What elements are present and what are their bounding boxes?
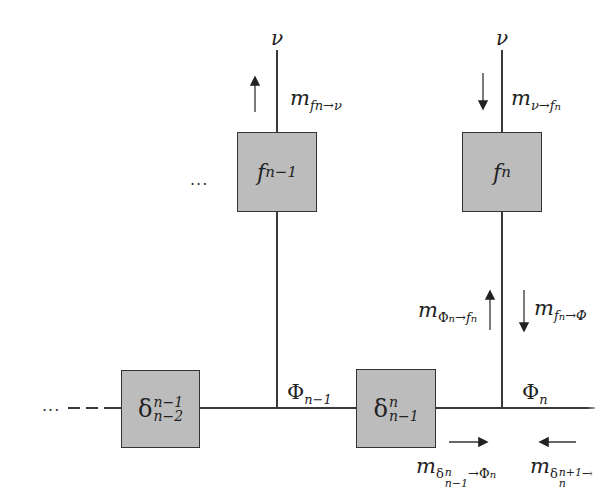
right-edge-fade <box>587 0 601 499</box>
message-arrows <box>0 0 601 499</box>
